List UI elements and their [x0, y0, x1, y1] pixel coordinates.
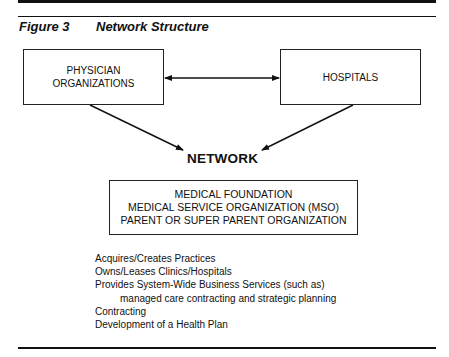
list-item: Development of a Health Plan [95, 318, 336, 331]
network-label: NETWORK [187, 151, 258, 166]
functions-list: Acquires/Creates Practices Owns/Leases C… [95, 252, 336, 331]
physician-organizations-box: PHYSICIAN ORGANIZATIONS [23, 49, 164, 105]
hospitals-label: HOSPITALS [323, 71, 378, 84]
organization-box: MEDICAL FOUNDATION MEDICAL SERVICE ORGAN… [109, 180, 358, 235]
bottom-rule [18, 347, 436, 349]
list-item: Provides System-Wide Business Services (… [95, 278, 336, 291]
physician-label-line1: PHYSICIAN [67, 64, 121, 77]
org-line1: MEDICAL FOUNDATION [175, 188, 293, 201]
physician-label-line2: ORGANIZATIONS [52, 77, 134, 90]
list-item: Acquires/Creates Practices [95, 252, 336, 265]
hospitals-box: HOSPITALS [280, 49, 421, 105]
list-item: Contracting [95, 305, 336, 318]
list-item: Owns/Leases Clinics/Hospitals [95, 265, 336, 278]
org-line3: PARENT OR SUPER PARENT ORGANIZATION [121, 214, 347, 227]
arrow-physicians-to-network [90, 105, 183, 150]
org-line2: MEDICAL SERVICE ORGANIZATION (MSO) [128, 201, 339, 214]
arrow-hospitals-to-network [262, 105, 353, 150]
list-item-continuation: managed care contracting and strategic p… [95, 292, 336, 305]
